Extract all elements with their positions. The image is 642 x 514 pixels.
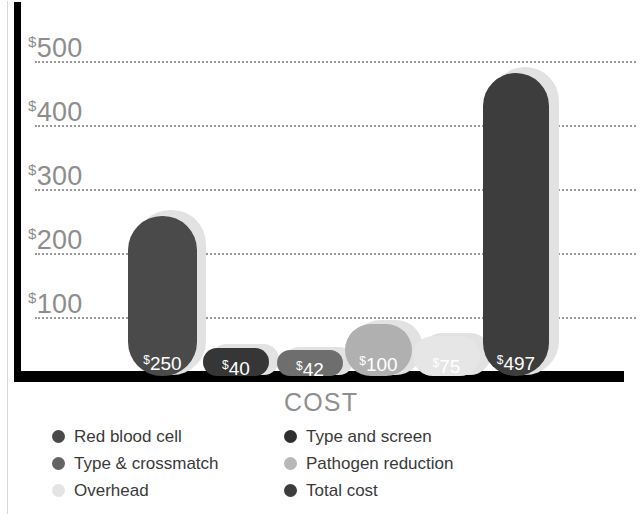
bar-value-pathogen-reduction: $100: [345, 352, 412, 374]
bar-value-type-and-screen: $40: [203, 356, 269, 378]
legend-label: Overhead: [74, 482, 149, 499]
bar-value-red-blood-cell: $250: [128, 351, 197, 373]
legend-item-red-blood-cell[interactable]: Red blood cell: [52, 424, 284, 449]
bar-value-text: 100: [366, 354, 398, 375]
legend-item-type-and-crossmatch[interactable]: Type & crossmatch: [52, 451, 284, 476]
chart-legend: Red blood cell Type and screen Type & cr…: [52, 424, 612, 503]
bar-value-text: 497: [503, 353, 535, 374]
legend-dot-icon: [284, 484, 297, 497]
y-tick-value: 300: [37, 161, 83, 191]
bar-total-cost[interactable]: [483, 73, 549, 376]
y-tick-value: 200: [37, 225, 83, 255]
page-border-left: [7, 0, 8, 514]
legend-item-pathogen-reduction[interactable]: Pathogen reduction: [284, 451, 612, 476]
legend-dot-icon: [52, 430, 65, 443]
legend-label: Type & crossmatch: [74, 455, 219, 472]
y-tick-value: 500: [37, 33, 83, 63]
bar-value-total-cost: $497: [483, 351, 549, 373]
bar-value-type-and-crossmatch: $42: [277, 357, 343, 379]
y-tick-label-400: $400: [28, 92, 83, 126]
currency-symbol: $: [28, 33, 37, 50]
y-tick-value: 400: [37, 97, 83, 127]
legend-item-overhead[interactable]: Overhead: [52, 478, 284, 503]
currency-symbol: $: [28, 225, 37, 242]
legend-dot-icon: [52, 484, 65, 497]
currency-symbol: $: [222, 358, 229, 372]
currency-symbol: $: [28, 289, 37, 306]
bar-value-text: 75: [439, 356, 460, 377]
bar-value-text: 40: [229, 358, 250, 379]
gridline-500: [35, 61, 636, 63]
y-tick-label-300: $300: [28, 156, 83, 190]
legend-dot-icon: [52, 457, 65, 470]
legend-dot-icon: [284, 430, 297, 443]
legend-item-total-cost[interactable]: Total cost: [284, 478, 612, 503]
bar-value-text: 250: [150, 353, 182, 374]
currency-symbol: $: [143, 353, 150, 367]
currency-symbol: $: [296, 359, 303, 373]
y-tick-label-100: $100: [28, 284, 83, 318]
legend-label: Pathogen reduction: [306, 455, 453, 472]
y-axis-line: [14, 2, 21, 382]
legend-label: Type and screen: [306, 428, 432, 445]
y-tick-label-500: $500: [28, 28, 83, 62]
bar-value-overhead: $75: [413, 354, 480, 376]
currency-symbol: $: [28, 97, 37, 114]
x-axis-title: COST: [0, 388, 642, 417]
y-tick-value: 100: [37, 289, 83, 319]
currency-symbol: $: [28, 161, 37, 178]
chart-plot-area: $500 $400 $300 $200 $100 $250 $40 $42 $1…: [14, 0, 626, 384]
legend-label: Red blood cell: [74, 428, 182, 445]
legend-item-type-and-screen[interactable]: Type and screen: [284, 424, 612, 449]
bar-value-text: 42: [303, 359, 324, 380]
currency-symbol: $: [359, 354, 366, 368]
legend-label: Total cost: [306, 482, 378, 499]
y-tick-label-200: $200: [28, 220, 83, 254]
legend-dot-icon: [284, 457, 297, 470]
